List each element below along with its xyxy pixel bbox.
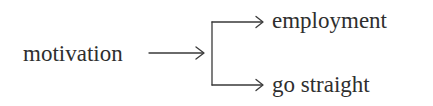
target-node-employment-label: employment <box>272 9 387 32</box>
target-node-go-straight-label: go straight <box>272 73 370 96</box>
source-node-label: motivation <box>23 42 123 65</box>
flow-diagram: motivation employment go straight <box>0 0 433 106</box>
